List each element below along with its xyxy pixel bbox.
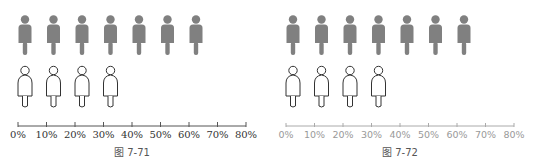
female-figure-icon bbox=[372, 66, 386, 107]
female-figure-icon bbox=[315, 66, 329, 107]
tick-label: 20% bbox=[332, 129, 353, 140]
male-figure-icon bbox=[429, 15, 442, 55]
female-icon-row bbox=[286, 66, 386, 107]
male-figure-icon bbox=[401, 15, 414, 55]
male-figure-icon bbox=[19, 15, 32, 55]
pictogram-canvas bbox=[268, 0, 536, 165]
pictogram-canvas bbox=[0, 0, 268, 165]
x-axis bbox=[18, 122, 246, 127]
tick-label: 40% bbox=[121, 129, 143, 140]
tick-label: 60% bbox=[178, 129, 200, 140]
tick-label: 70% bbox=[206, 129, 228, 140]
tick-label: 80% bbox=[503, 129, 524, 140]
tick-label: 40% bbox=[389, 129, 410, 140]
female-figure-icon bbox=[75, 66, 89, 107]
tick-label: 60% bbox=[446, 129, 467, 140]
tick-label: 50% bbox=[149, 129, 171, 140]
tick-label: 30% bbox=[92, 129, 114, 140]
male-figure-icon bbox=[47, 15, 60, 55]
x-axis bbox=[286, 123, 514, 127]
female-icon-row bbox=[18, 66, 118, 107]
male-figure-icon bbox=[458, 15, 471, 55]
figure-caption: 图 7-72 bbox=[268, 144, 532, 159]
male-figure-icon bbox=[190, 15, 203, 55]
male-figure-icon bbox=[287, 15, 300, 55]
figure-caption: 图 7-71 bbox=[0, 144, 264, 159]
tick-label: 0% bbox=[278, 129, 293, 140]
male-figure-icon bbox=[161, 15, 174, 55]
male-icon-row bbox=[287, 15, 471, 55]
male-figure-icon bbox=[372, 15, 385, 55]
male-icon-row bbox=[19, 15, 203, 55]
tick-label: 20% bbox=[64, 129, 86, 140]
male-figure-icon bbox=[76, 15, 89, 55]
tick-label: 80% bbox=[235, 129, 257, 140]
tick-label: 10% bbox=[304, 129, 325, 140]
male-figure-icon bbox=[104, 15, 117, 55]
female-figure-icon bbox=[343, 66, 357, 107]
tick-label: 50% bbox=[418, 129, 439, 140]
male-figure-icon bbox=[315, 15, 328, 55]
female-figure-icon bbox=[286, 66, 300, 107]
male-figure-icon bbox=[344, 15, 357, 55]
female-figure-icon bbox=[18, 66, 32, 107]
tick-label: 70% bbox=[475, 129, 496, 140]
tick-label: 0% bbox=[10, 129, 26, 140]
chart-figure-7-71: 0% 10% 20% 30% 40% 50% 60% 70% 80% 图 7-7… bbox=[0, 0, 268, 165]
female-figure-icon bbox=[47, 66, 61, 107]
female-figure-icon bbox=[104, 66, 118, 107]
tick-label: 30% bbox=[361, 129, 382, 140]
tick-label: 10% bbox=[35, 129, 57, 140]
chart-figure-7-72: 0% 10% 20% 30% 40% 50% 60% 70% 80% 图 7-7… bbox=[268, 0, 536, 165]
male-figure-icon bbox=[133, 15, 146, 55]
